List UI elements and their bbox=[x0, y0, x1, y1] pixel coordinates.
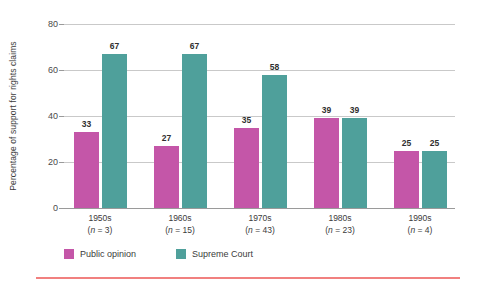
bar-1960s-supreme-court: 67 bbox=[182, 54, 207, 208]
y-tick-label-40: 40 bbox=[48, 111, 58, 121]
x-axis-category: 1950s bbox=[65, 212, 135, 224]
x-axis-category: 1980s bbox=[305, 212, 375, 224]
y-tick-label-80: 80 bbox=[48, 19, 58, 29]
bar-value-label: 27 bbox=[162, 133, 171, 143]
bar-value-label: 25 bbox=[402, 138, 411, 148]
x-axis-category: 1960s bbox=[145, 212, 215, 224]
y-tick-mark-40 bbox=[59, 116, 64, 117]
plot-area: 020406080 33672767355839392525 bbox=[64, 24, 455, 208]
bar-value-label: 39 bbox=[322, 105, 331, 115]
bar-chart-figure: Percentage of support for rights claims … bbox=[0, 0, 477, 288]
x-axis-category: 1990s bbox=[385, 212, 455, 224]
bar-1970s-public-opinion: 35 bbox=[234, 128, 259, 209]
x-axis-sample-size: (n = 15) bbox=[145, 224, 215, 236]
bar-value-label: 33 bbox=[82, 119, 91, 129]
bar-1950s-supreme-court: 67 bbox=[102, 54, 127, 208]
x-axis-label-1980s: 1980s(n = 23) bbox=[305, 212, 375, 236]
bar-value-label: 67 bbox=[110, 41, 119, 51]
gridline-0 bbox=[64, 208, 455, 209]
legend-item-public-opinion: Public opinion bbox=[64, 249, 136, 259]
y-tick-mark-0 bbox=[59, 208, 64, 209]
x-axis-label-1950s: 1950s(n = 3) bbox=[65, 212, 135, 236]
y-axis-title: Percentage of support for rights claims bbox=[6, 24, 20, 208]
bar-value-label: 58 bbox=[270, 62, 279, 72]
y-tick-mark-20 bbox=[59, 162, 64, 163]
x-axis-sample-size: (n = 4) bbox=[385, 224, 455, 236]
x-axis-label-1970s: 1970s(n = 43) bbox=[225, 212, 295, 236]
legend-label: Public opinion bbox=[80, 249, 136, 259]
y-axis-title-text: Percentage of support for rights claims bbox=[8, 41, 18, 190]
x-axis-label-1960s: 1960s(n = 15) bbox=[145, 212, 215, 236]
bar-group-1960s: 2767 bbox=[152, 24, 208, 208]
chart-legend: Public opinionSupreme Court bbox=[64, 249, 253, 259]
bar-1970s-supreme-court: 58 bbox=[262, 75, 287, 208]
bar-group-1980s: 3939 bbox=[312, 24, 368, 208]
legend-swatch-icon bbox=[176, 249, 186, 259]
legend-item-supreme-court: Supreme Court bbox=[176, 249, 253, 259]
legend-label: Supreme Court bbox=[192, 249, 253, 259]
bottom-rule bbox=[36, 277, 460, 279]
bar-1950s-public-opinion: 33 bbox=[74, 132, 99, 208]
bar-group-1970s: 3558 bbox=[232, 24, 288, 208]
y-tick-label-20: 20 bbox=[48, 157, 58, 167]
x-axis-sample-size: (n = 23) bbox=[305, 224, 375, 236]
y-tick-label-60: 60 bbox=[48, 65, 58, 75]
bar-1980s-public-opinion: 39 bbox=[314, 118, 339, 208]
legend-swatch-icon bbox=[64, 249, 74, 259]
bar-group-1950s: 3367 bbox=[72, 24, 128, 208]
bar-value-label: 25 bbox=[430, 138, 439, 148]
bar-value-label: 39 bbox=[350, 105, 359, 115]
x-axis-labels: 1950s(n = 3)1960s(n = 15)1970s(n = 43)19… bbox=[64, 212, 455, 246]
bar-1980s-supreme-court: 39 bbox=[342, 118, 367, 208]
bar-value-label: 35 bbox=[242, 115, 251, 125]
x-axis-label-1990s: 1990s(n = 4) bbox=[385, 212, 455, 236]
y-tick-mark-60 bbox=[59, 70, 64, 71]
bar-1990s-supreme-court: 25 bbox=[422, 151, 447, 209]
bar-value-label: 67 bbox=[190, 41, 199, 51]
x-axis-category: 1970s bbox=[225, 212, 295, 224]
x-axis-sample-size: (n = 3) bbox=[65, 224, 135, 236]
bar-group-1990s: 2525 bbox=[392, 24, 448, 208]
bar-1990s-public-opinion: 25 bbox=[394, 151, 419, 209]
x-axis-sample-size: (n = 43) bbox=[225, 224, 295, 236]
bar-1960s-public-opinion: 27 bbox=[154, 146, 179, 208]
y-tick-mark-80 bbox=[59, 24, 64, 25]
y-tick-label-0: 0 bbox=[53, 203, 58, 213]
